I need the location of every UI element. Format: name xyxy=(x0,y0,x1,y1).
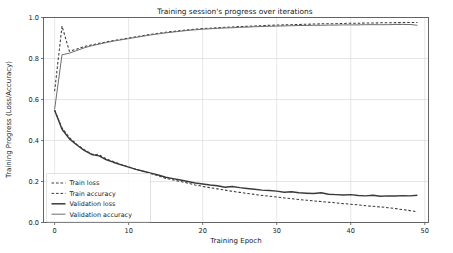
y-tick-label: 1.0 xyxy=(29,14,40,22)
legend-label-train-loss[interactable]: Train loss xyxy=(69,179,100,187)
x-axis-label: Training Epoch xyxy=(209,237,261,245)
training-progress-line-chart: Training session's progress over iterati… xyxy=(0,0,453,253)
y-tick-label: 0.6 xyxy=(29,96,40,104)
chart-figure: Training session's progress over iterati… xyxy=(0,0,453,253)
x-tick-label: 0 xyxy=(53,227,57,235)
x-tick-label: 40 xyxy=(347,227,355,235)
legend-label-validation-accuracy[interactable]: Validation accuracy xyxy=(70,211,133,219)
y-tick-label: 0.4 xyxy=(29,137,40,145)
y-tick-label: 0.0 xyxy=(29,219,40,227)
y-tick-label: 0.8 xyxy=(29,55,40,63)
x-tick-label: 10 xyxy=(124,227,132,235)
legend-label-validation-loss[interactable]: Validation loss xyxy=(70,200,117,208)
y-tick-label: 0.2 xyxy=(29,178,40,186)
x-tick-label: 20 xyxy=(198,227,206,235)
x-tick-label: 30 xyxy=(273,227,281,235)
y-axis-label: Training Progress (Loss/Accuracy) xyxy=(5,61,13,179)
x-tick-label: 50 xyxy=(421,227,429,235)
chart-title: Training session's progress over iterati… xyxy=(156,7,312,16)
legend-label-train-accuracy[interactable]: Train accuracy xyxy=(69,190,116,198)
chart-legend[interactable]: Train lossTrain accuracyValidation lossV… xyxy=(47,174,151,223)
